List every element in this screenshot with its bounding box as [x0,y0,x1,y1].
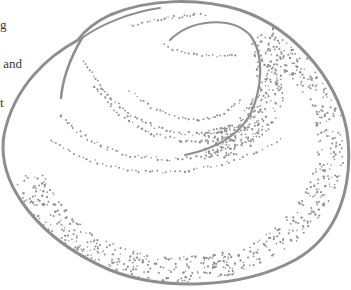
spiral-curl [170,22,260,155]
stippled-bun-illustration [0,0,351,290]
